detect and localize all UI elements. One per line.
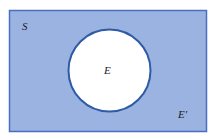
event-label: E xyxy=(103,64,111,76)
complement-label: E' xyxy=(177,108,188,120)
venn-diagram: S E E' xyxy=(0,0,221,139)
sample-space-label: S xyxy=(22,20,28,32)
